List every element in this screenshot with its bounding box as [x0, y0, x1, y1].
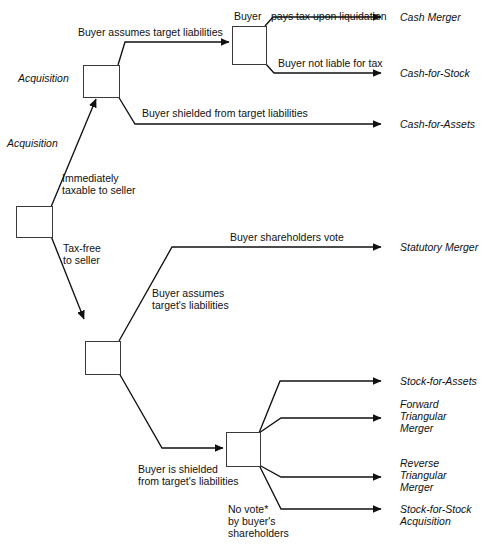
edge-shielded-to-forward-triangular-merger [259, 418, 381, 433]
buyer-tax-node[interactable] [232, 26, 267, 65]
outcome-forward-triangular-merger: Forward Triangular Merger [400, 398, 447, 434]
label-acquisition-bottom: Acquisition [7, 137, 58, 149]
label-acquisition-top: Acquisition [18, 72, 69, 84]
root-decision-node[interactable] [16, 206, 53, 238]
outcome-stock-for-assets: Stock-for-Assets [400, 375, 477, 387]
label-tax-free-to-seller: Tax-free to seller [63, 242, 101, 266]
label-no-vote-by-buyers-shareholders: No vote* by buyer's shareholders [228, 503, 289, 539]
label-immediately-taxable-to-seller: Immediately taxable to seller [62, 172, 136, 196]
outcome-cash-for-assets: Cash-for-Assets [400, 118, 475, 130]
label-buyer: Buyer [234, 10, 261, 22]
label-buyer-shielded-from-target-liabilities: Buyer shielded from target liabilities [142, 107, 308, 119]
label-buyer-shareholders-vote: Buyer shareholders vote [230, 231, 344, 243]
shielded-liabilities-node[interactable] [226, 432, 261, 467]
label-buyer-not-liable-for-tax: Buyer not liable for tax [278, 57, 382, 69]
edge-taxfree-to-shielded [119, 373, 223, 448]
edge-shielded-to-stock-for-assets [259, 381, 381, 433]
taxfree-acquisition-node[interactable] [85, 341, 121, 375]
outcome-stock-for-stock-acquisition: Stock-for-Stock Acquisition [400, 503, 472, 527]
edge-taxable-to-buyer [118, 42, 229, 65]
edge-shielded-to-reverse-triangular-merger [259, 465, 381, 477]
outcome-cash-for-stock: Cash-for-Stock [400, 67, 470, 79]
decision-tree-diagram: Acquisition Acquisition Buyer assumes ta… [0, 0, 486, 552]
outcome-statutory-merger: Statutory Merger [400, 241, 478, 253]
outcome-reverse-triangular-merger: Reverse Triangular Merger [400, 457, 447, 493]
outcome-cash-merger: Cash Merger [400, 11, 461, 23]
label-buyer-assumes-targets-liabilities: Buyer assumes target's liabilities [152, 287, 229, 311]
taxable-acquisition-node[interactable] [83, 65, 120, 98]
label-buyer-is-shielded-from-targets-liabilities: Buyer is shielded from target's liabilit… [138, 463, 239, 487]
label-pays-tax-upon-liquidation: pays tax upon liquidation [271, 10, 387, 22]
label-buyer-assumes-target-liabilities: Buyer assumes target liabilities [78, 26, 223, 38]
